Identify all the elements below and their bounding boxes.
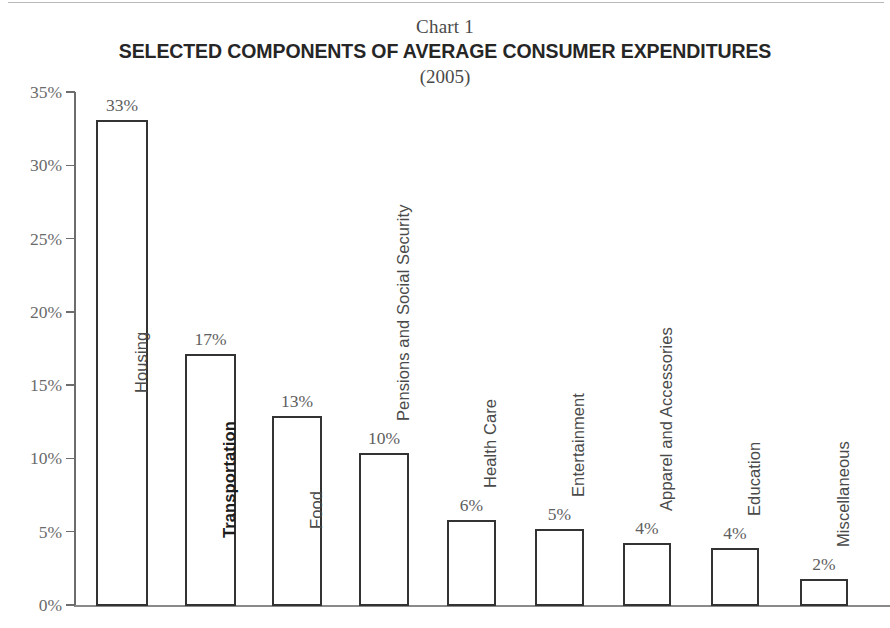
bar[interactable]	[447, 520, 496, 606]
bar-value-label: 13%	[247, 391, 347, 412]
bar[interactable]	[623, 543, 671, 606]
bar-value-label: 6%	[422, 495, 521, 516]
y-axis-tick	[66, 604, 75, 606]
bar-value-label: 4%	[598, 518, 696, 539]
bar-category-label: Transportation	[220, 421, 239, 538]
y-axis-tick	[66, 311, 75, 313]
bar-value-label: 33%	[71, 95, 173, 116]
bar-category-label: Health Care	[481, 399, 500, 488]
y-axis-line	[74, 92, 76, 606]
chart-page: Chart 1 SELECTED COMPONENTS OF AVERAGE C…	[0, 0, 890, 628]
bar-category-label: Education	[745, 442, 764, 516]
y-axis-tick	[66, 531, 75, 533]
plot-area: 0%5%10%15%20%25%30%35% 33%Housing17%Tran…	[0, 0, 890, 628]
y-axis-tick-label: 5%	[6, 521, 62, 542]
bar[interactable]	[535, 529, 584, 606]
bar-category-label: Miscellaneous	[834, 441, 853, 547]
bar-category-label: Entertainment	[569, 393, 588, 497]
y-axis-tick-label: 20%	[6, 301, 62, 322]
bar-value-label: 17%	[160, 329, 261, 350]
bar[interactable]	[711, 548, 759, 606]
y-axis-tick-label: 25%	[6, 228, 62, 249]
bar-category-label: Housing	[132, 332, 151, 393]
y-axis-tick	[66, 458, 75, 460]
bar-category-label: Food	[307, 491, 326, 529]
bar-category-label: Apparel and Accessories	[657, 328, 676, 512]
y-axis-tick-label: 0%	[6, 595, 62, 616]
y-axis-tick	[66, 384, 75, 386]
bar-value-label: 4%	[686, 523, 784, 544]
bar-value-label: 10%	[334, 428, 434, 449]
y-axis-tick-label: 15%	[6, 375, 62, 396]
bar-value-label: 5%	[510, 504, 609, 525]
bar-category-label: Pensions and Social Security	[394, 204, 413, 421]
y-axis-tick	[66, 165, 75, 167]
bar[interactable]	[800, 579, 848, 606]
y-axis-tick-label: 35%	[6, 82, 62, 103]
bar[interactable]	[359, 453, 409, 606]
bar-value-label: 2%	[775, 554, 873, 575]
y-axis-tick-label: 30%	[6, 155, 62, 176]
y-axis-tick-label: 10%	[6, 448, 62, 469]
y-axis-tick	[66, 238, 75, 240]
y-axis-tick	[66, 91, 75, 93]
